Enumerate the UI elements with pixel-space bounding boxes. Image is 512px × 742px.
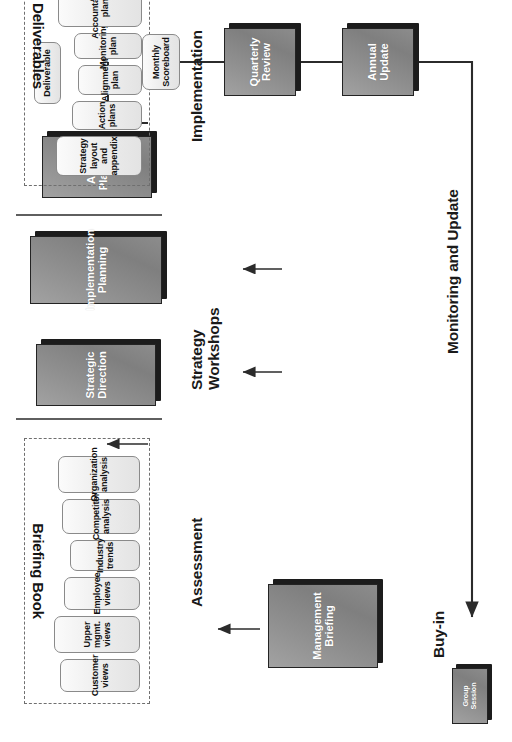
diagram-screen: Buy-in Assessment Strategy Workshops Imp… [0,0,512,742]
deliverable-label: Strategy layout and appendix [78,136,119,175]
phase-label-assessment: Assessment [188,518,205,607]
briefing-item-label: Upper mgmt. views [82,617,113,652]
annual-update-face: Annual Update [342,28,414,96]
implementation-planning-face: Implementation Planning [30,236,162,304]
deliverable-strategy-layout[interactable]: Strategy layout and appendix [56,136,142,176]
deliverable-alignment-plan[interactable]: Alignment plan [78,65,142,95]
deliverable-accountability-plan[interactable]: Accountability plan [58,0,142,27]
briefing-item-label: Customer views [90,655,111,697]
divider-workshops-implementation [16,214,162,216]
briefing-item-label: Organization analysis [89,447,110,501]
phase-label-buyin: Buy-in [430,611,447,658]
diagram-canvas: Buy-in Assessment Strategy Workshops Imp… [0,0,512,742]
management-briefing-label: Management Briefing [311,592,336,659]
process-box-management-briefing[interactable]: Management Briefing [268,584,378,668]
monitoring-box-monthly-scoreboard[interactable]: Monthly Scoreboard [142,34,180,90]
legend-group-session-label: Group Session [462,683,478,710]
briefing-item-competitor-analysis[interactable]: Competitor analysis [62,499,140,534]
quarterly-review-face: Quarterly Review [224,28,296,96]
annual-update-label: Annual Update [366,43,391,80]
phase-label-workshops: Strategy Workshops [188,308,223,390]
group-title-deliverables: Deliverables [30,0,47,186]
briefing-item-organization-analysis[interactable]: Organization analysis [58,456,140,493]
group-title-briefing-book: Briefing Book [30,440,47,702]
briefing-item-upper-mgmt-views[interactable]: Upper mgmt. views [54,616,140,653]
implementation-planning-label: Implementation Planning [84,229,109,310]
process-box-implementation-planning[interactable]: Implementation Planning [30,236,162,304]
briefing-item-customer-views[interactable]: Customer views [60,659,140,692]
deliverable-label: Accountability plan [90,0,111,39]
divider-assessment-workshops [16,418,162,420]
briefing-item-label: Industry trends [95,538,116,573]
briefing-item-industry-trends[interactable]: Industry trends [70,540,140,571]
monthly-scoreboard-label: Monthly Scoreboard [151,37,172,87]
process-box-strategic-direction[interactable]: Strategic Direction [36,344,156,406]
strategic-direction-label: Strategic Direction [84,351,109,399]
legend-group-session-face: Group Session [452,668,488,724]
process-box-quarterly-review[interactable]: Quarterly Review [224,28,296,96]
process-box-annual-update[interactable]: Annual Update [342,28,414,96]
management-briefing-face: Management Briefing [268,584,378,668]
legend-group-session-box: Group Session [452,668,488,724]
deliverable-label: Action plans [97,102,118,130]
wire-annual-feedback-loop [414,62,472,617]
briefing-item-label: Employee views [92,572,113,614]
quarterly-review-label: Quarterly Review [248,38,273,87]
strategic-direction-face: Strategic Direction [36,344,156,406]
deliverable-action-plans[interactable]: Action plans [72,101,142,130]
deliverable-label: Communications plan [87,0,108,1]
briefing-item-employee-views[interactable]: Employee views [64,577,140,610]
monitoring-and-update-label: Monitoring and Update [444,189,461,354]
phase-label-implementation: Implementation [188,30,205,142]
